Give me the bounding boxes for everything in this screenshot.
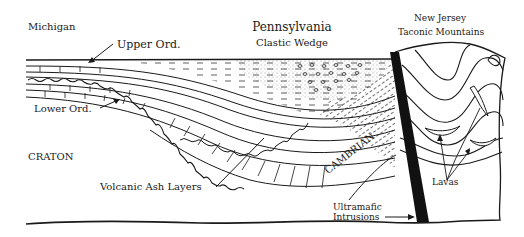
label-lavas: Lavas [432, 178, 458, 187]
lava-leaders [440, 108, 480, 180]
label-lower-ord: Lower Ord. [34, 104, 92, 114]
ultramafic-intrusion [390, 52, 429, 222]
label-upper-ord: Upper Ord. [117, 39, 180, 50]
label-clastic-wedge: Clastic Wedge [256, 38, 328, 48]
label-pennsylvania: Pennsylvania [252, 21, 332, 33]
label-craton: CRATON [28, 152, 73, 162]
base-line [26, 221, 462, 224]
label-taconic-mountains: Taconic Mountains [398, 28, 484, 37]
label-intrusions: Intrusions [333, 213, 379, 222]
label-volcanic-ash-layers: Volcanic Ash Layers [100, 182, 202, 192]
label-ultramafic: Ultramafic [333, 203, 382, 212]
label-michigan: Michigan [28, 22, 75, 32]
label-new-jersey: New Jersey [414, 14, 466, 23]
